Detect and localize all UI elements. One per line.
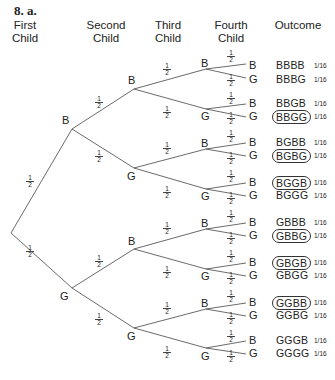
outcome-label: GGBB — [272, 296, 311, 310]
branch-probability: 12 — [227, 50, 235, 63]
outcome-label: GBGB — [272, 256, 311, 270]
outcome-label: BGGG — [276, 189, 308, 201]
branch-probability: 12 — [95, 313, 103, 326]
outcome-label: BGBG — [272, 149, 311, 163]
node-l4: G — [249, 149, 258, 161]
outcome-label: BBGG — [272, 110, 311, 124]
branch-probability: 12 — [26, 175, 34, 188]
branch-probability: 12 — [227, 152, 235, 165]
outcome-label: GGGB — [276, 334, 308, 346]
node-l4: B — [249, 334, 256, 346]
branch-probability: 12 — [95, 96, 103, 109]
branch-probability: 12 — [163, 63, 171, 76]
outcome-probability: 1/16 — [314, 62, 327, 69]
outcome-probability: 1/16 — [314, 139, 327, 146]
outcome-probability: 1/16 — [314, 259, 327, 266]
outcome-probability: 1/16 — [314, 272, 327, 279]
outcome-label: GGBG — [276, 309, 308, 321]
node-l3: G — [201, 270, 210, 282]
outcome-label: GBBB — [276, 216, 306, 228]
branch-probability: 12 — [95, 150, 103, 163]
node-l4: B — [249, 136, 256, 148]
branch-probability: 12 — [227, 232, 235, 245]
outcome-probability: 1/16 — [314, 232, 327, 239]
outcome-probability: 1/16 — [314, 179, 327, 186]
branch-probability: 12 — [227, 272, 235, 285]
branch-probability: 12 — [227, 350, 235, 363]
outcome-label: BBBG — [276, 73, 306, 85]
outcome-label: GBGG — [276, 269, 308, 281]
outcome-label: GBBG — [272, 229, 311, 243]
node-l3: B — [201, 297, 208, 309]
outcome-probability: 1/16 — [314, 100, 327, 107]
node-l4: B — [249, 296, 256, 308]
node-l3: B — [201, 57, 208, 69]
node-l3: B — [201, 217, 208, 229]
branch-probability: 12 — [227, 92, 235, 105]
branch-probability: 12 — [227, 330, 235, 343]
node-l2: G — [127, 170, 136, 182]
branch-probability: 12 — [163, 106, 171, 119]
node-l4: B — [249, 216, 256, 228]
branch-probability: 12 — [227, 192, 235, 205]
outcome-label: GGGG — [276, 347, 309, 359]
outcome-label: BGBB — [276, 136, 306, 148]
branch-probability: 12 — [163, 186, 171, 199]
node-l4: G — [249, 309, 258, 321]
node-l4: G — [249, 347, 258, 359]
branch-probability: 12 — [26, 245, 34, 258]
node-l3: G — [201, 190, 210, 202]
node-l2: B — [128, 74, 135, 86]
branch-probability: 12 — [163, 346, 171, 359]
branch-probability: 12 — [227, 74, 235, 87]
node-l4: G — [249, 269, 258, 281]
node-l2: B — [128, 235, 135, 247]
node-l4: G — [249, 229, 258, 241]
node-l4: B — [249, 176, 256, 188]
branch-probability: 12 — [163, 266, 171, 279]
outcome-probability: 1/16 — [314, 113, 327, 120]
node-l2: G — [127, 330, 136, 342]
node-l4: B — [249, 97, 256, 109]
branch-probability: 12 — [163, 142, 171, 155]
branch-probability: 12 — [163, 302, 171, 315]
outcome-label: BBBB — [276, 59, 305, 71]
node-l1-b: B — [62, 114, 69, 126]
node-l3: G — [201, 110, 210, 122]
node-l1-g: G — [60, 290, 69, 302]
branch-probability: 12 — [163, 222, 171, 235]
outcome-probability: 1/16 — [314, 152, 327, 159]
node-l4: G — [249, 110, 258, 122]
outcome-probability: 1/16 — [314, 76, 327, 83]
node-l4: B — [249, 256, 256, 268]
node-l4: G — [249, 73, 258, 85]
branch-probability: 12 — [227, 170, 235, 183]
branch-probability: 12 — [95, 255, 103, 268]
branch-probability: 12 — [227, 312, 235, 325]
outcome-probability: 1/16 — [314, 337, 327, 344]
outcome-probability: 1/16 — [314, 312, 327, 319]
outcome-probability: 1/16 — [314, 219, 327, 226]
outcome-probability: 1/16 — [314, 299, 327, 306]
node-l3: B — [201, 137, 208, 149]
outcome-probability: 1/16 — [314, 192, 327, 199]
node-l4: B — [249, 59, 256, 71]
branch-probability: 12 — [227, 130, 235, 143]
branch-probability: 12 — [227, 112, 235, 125]
outcome-label: BGGB — [272, 176, 311, 190]
branch-probability: 12 — [227, 290, 235, 303]
outcome-probability: 1/16 — [314, 350, 327, 357]
node-l3: G — [201, 350, 210, 362]
node-l4: G — [249, 189, 258, 201]
branch-probability: 12 — [227, 250, 235, 263]
outcome-label: BBGB — [276, 97, 306, 109]
branch-probability: 12 — [227, 210, 235, 223]
